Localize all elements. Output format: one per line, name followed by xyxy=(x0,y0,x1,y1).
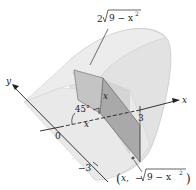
y-axis-arrow-icon xyxy=(12,84,19,90)
svg-text:9 − x: 9 − x xyxy=(147,172,171,182)
x-axis-arrow-icon xyxy=(172,98,180,103)
top-length-label: 2 9 − x 2 xyxy=(97,10,141,24)
point-marker xyxy=(131,156,134,159)
y-tick-label: −3 xyxy=(78,163,92,173)
svg-text:2: 2 xyxy=(179,169,183,176)
angle-label: 45° xyxy=(75,104,90,114)
svg-text:x,: x, xyxy=(121,173,129,183)
svg-text:−: − xyxy=(135,173,143,183)
height-label: x xyxy=(103,91,108,101)
svg-text:): ) xyxy=(186,172,191,186)
origin-label: 0 xyxy=(55,131,61,141)
base-x-label: x xyxy=(84,119,89,129)
svg-text:9 − x: 9 − x xyxy=(109,13,133,23)
y-axis-label: y xyxy=(5,76,12,86)
x-axis-label: x xyxy=(182,95,187,105)
svg-text:2: 2 xyxy=(97,14,103,24)
x-tick-label: 3 xyxy=(138,113,144,123)
point-label: ( x, − 9 − x 2 ) xyxy=(116,169,191,186)
svg-text:(: ( xyxy=(116,172,121,186)
diagram-canvas: y x 0 3 −3 45° x x 2 9 − x 2 ( x, − 9 − … xyxy=(0,0,196,190)
svg-text:2: 2 xyxy=(135,10,139,17)
solid-diagram: y x 0 3 −3 45° x x 2 9 − x 2 ( x, − 9 − … xyxy=(0,0,196,190)
